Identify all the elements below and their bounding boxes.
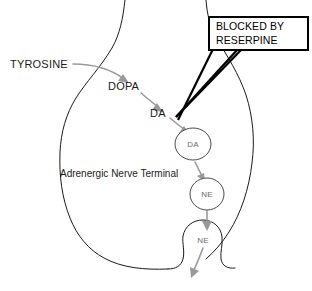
adrenergic-nerve-terminal-diagram: DA NE NE TYROSINE DOPA DA Adrenergic Ner…	[0, 0, 312, 291]
vesicle-ne-fusing: NE	[197, 236, 209, 245]
callout-line-2: RESERPINE	[216, 34, 278, 46]
vesicle-ne-fusing-label: NE	[197, 236, 209, 245]
arrow-ne-vesicle-to-fusion	[202, 211, 212, 231]
arrow-ne-release	[190, 248, 203, 278]
dopa-label: DOPA	[108, 80, 140, 92]
terminal-membrane-left	[60, 0, 168, 269]
callout-line-1: BLOCKED BY	[216, 20, 284, 32]
tyrosine-label: TYROSINE	[10, 58, 68, 70]
vesicle-ne: NE	[190, 178, 224, 210]
vesicle-da-label: DA	[187, 140, 199, 149]
diagram-canvas: DA NE NE TYROSINE DOPA DA Adrenergic Ner…	[0, 0, 312, 291]
vesicle-da: DA	[175, 128, 211, 160]
da-label: DA	[150, 107, 166, 119]
terminal-label: Adrenergic Nerve Terminal	[60, 168, 178, 179]
callout-blocked-by-reserpine: BLOCKED BY RESERPINE	[176, 17, 308, 120]
vesicle-ne-label: NE	[201, 190, 213, 199]
